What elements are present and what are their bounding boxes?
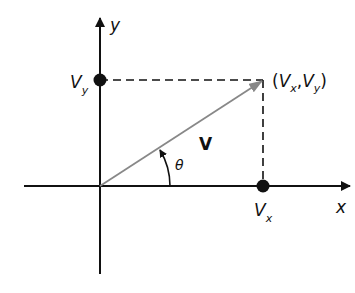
angle-label: θ <box>175 157 184 173</box>
angle-arc <box>160 150 170 186</box>
y-axis-label: y <box>109 15 121 35</box>
x-axis-label: x <box>335 197 347 217</box>
vx-label: Vx <box>254 200 273 225</box>
vector-label: V <box>199 134 213 154</box>
vy-point <box>94 74 107 87</box>
vector-tip-label: (Vx,Vy) <box>272 71 327 95</box>
vector-diagram: y x Vy Vx (Vx,Vy) V θ <box>0 0 355 293</box>
vy-label: Vy <box>70 72 89 97</box>
vx-point <box>257 180 270 193</box>
